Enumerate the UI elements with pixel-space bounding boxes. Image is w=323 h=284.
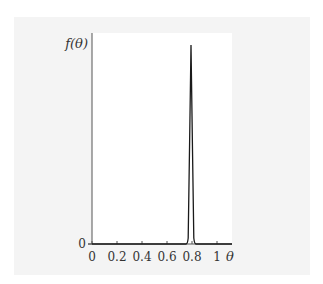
y-tick-label-0: 0 [78,237,86,251]
x-tick-label: 0.4 [132,250,151,264]
density-curve [92,45,232,244]
density-chart: f(θ) 0 0 0.2 0.4 0.6 0.8 1 θ [0,0,323,284]
x-tick-label: 0.8 [182,250,201,264]
x-tick-label: 0.6 [157,250,176,264]
x-tick-labels: 0 0.2 0.4 0.6 0.8 1 [88,250,221,264]
x-tick-label: 1 [213,250,221,264]
x-tick-label: 0.2 [107,250,126,264]
y-axis-label: f(θ) [64,36,88,51]
x-tick-label: 0 [88,250,96,264]
x-axis-label: θ [226,249,234,264]
